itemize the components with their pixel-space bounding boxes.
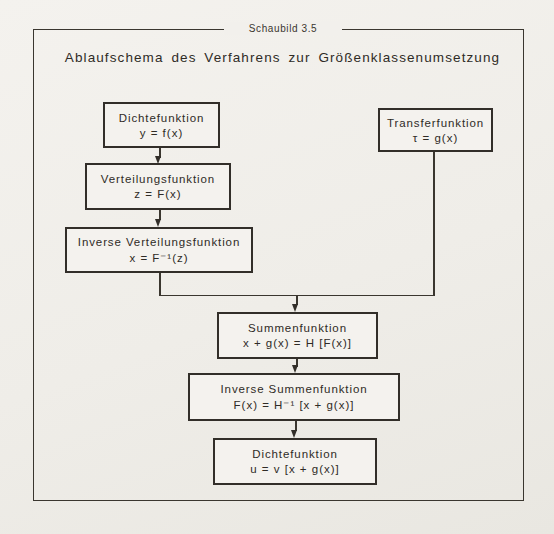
arrow-down-icon xyxy=(292,304,298,312)
node-dichtefunktion-top: Dichtefunktion y = f(x) xyxy=(103,102,220,148)
node-formula: F(x) = H⁻¹ [x + g(x)] xyxy=(234,398,355,412)
node-dichtefunktion-bottom: Dichtefunktion u = v [x + g(x)] xyxy=(213,438,377,485)
node-label: Dichtefunktion xyxy=(119,112,204,124)
scanned-diagram-page: Schaubild 3.5 Ablaufschema des Verfahren… xyxy=(0,0,554,534)
arrow-down-icon xyxy=(291,430,297,438)
connector-inverse-verteilung-down xyxy=(159,273,161,296)
arrow-down-icon xyxy=(155,219,161,227)
figure-caption: Schaubild 3.5 xyxy=(224,22,342,35)
node-label: Summenfunktion xyxy=(248,322,347,334)
arrow-down-icon xyxy=(155,156,161,164)
node-inverse-summenfunktion: Inverse Summenfunktion F(x) = H⁻¹ [x + g… xyxy=(188,373,400,421)
node-verteilungsfunktion: Verteilungsfunktion z = F(x) xyxy=(85,163,231,210)
arrow-down-icon xyxy=(292,365,298,373)
node-transferfunktion: Transferfunktion τ = g(x) xyxy=(378,108,493,152)
diagram-title: Ablaufschema des Verfahrens zur Größenkl… xyxy=(60,50,505,65)
node-summenfunktion: Summenfunktion x + g(x) = H [F(x)] xyxy=(217,312,378,359)
node-formula: y = f(x) xyxy=(140,127,183,139)
node-formula: x + g(x) = H [F(x)] xyxy=(243,337,352,349)
node-label: Dichtefunktion xyxy=(252,448,337,460)
node-formula: z = F(x) xyxy=(134,188,181,200)
node-label: Inverse Summenfunktion xyxy=(220,383,367,395)
node-label: Transferfunktion xyxy=(387,117,484,129)
node-label: Verteilungsfunktion xyxy=(101,173,215,185)
node-inverse-verteilungsfunktion: Inverse Verteilungsfunktion x = F⁻¹(z) xyxy=(65,227,253,273)
node-formula: x = F⁻¹(z) xyxy=(129,251,188,265)
node-formula: u = v [x + g(x)] xyxy=(250,463,340,475)
connector-transfer-down xyxy=(433,152,435,296)
node-label: Inverse Verteilungsfunktion xyxy=(78,236,240,248)
node-formula: τ = g(x) xyxy=(413,132,458,144)
